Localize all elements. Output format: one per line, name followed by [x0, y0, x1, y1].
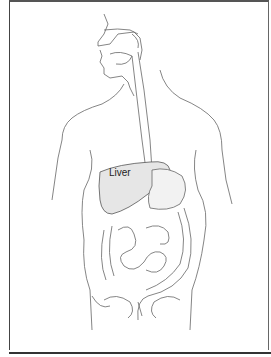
- liver-label: Liver: [109, 167, 131, 178]
- digestive-system-illustration: [0, 0, 271, 357]
- pelvis: [92, 296, 180, 318]
- small-intestine: [118, 226, 169, 273]
- esophagus: [132, 52, 152, 170]
- torso-outline: [52, 70, 232, 330]
- stomach: [148, 169, 185, 209]
- large-intestine: [101, 208, 191, 320]
